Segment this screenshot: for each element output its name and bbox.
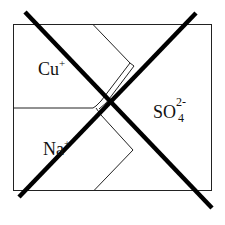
na-ion-label: Na+ [43, 140, 70, 158]
diagram-canvas [0, 0, 225, 225]
sulfate-ion-charge: 2- [176, 96, 186, 108]
sulfate-ion-label: SO2-4 [153, 100, 190, 121]
na-ion-symbol: Na [43, 139, 64, 159]
na-ion-charge: + [64, 137, 70, 149]
sulfate-ion-symbol: SO [153, 102, 176, 122]
sulfate-ion-indices: 2-4 [176, 100, 190, 118]
cu-ion-label: Cu+ [38, 60, 65, 78]
cu-ion-symbol: Cu [38, 59, 59, 79]
cu-ion-charge: + [59, 57, 65, 69]
sulfate-ion-subscript: 4 [178, 112, 184, 124]
